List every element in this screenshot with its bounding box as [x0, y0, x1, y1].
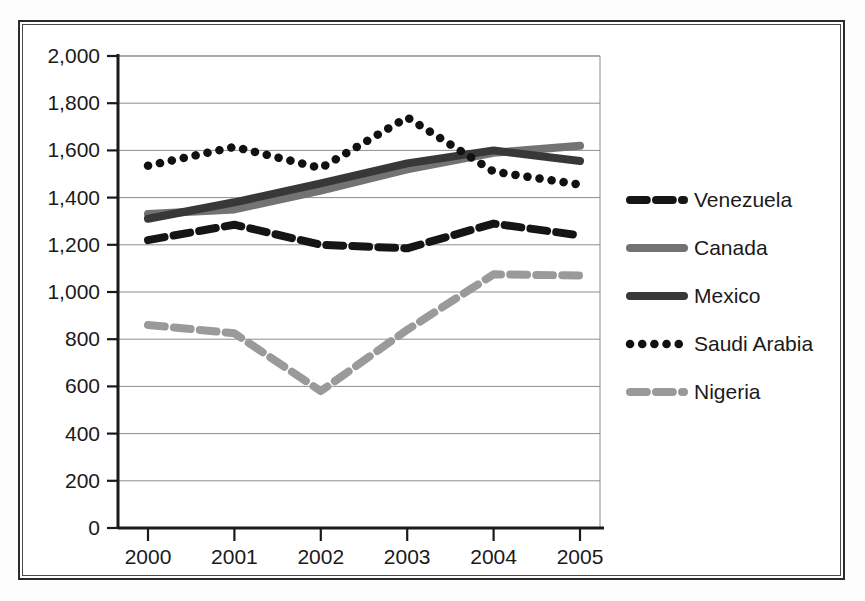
- series-line-mexico: [148, 150, 580, 218]
- x-axis-tick-label: 2002: [297, 545, 344, 568]
- legend-label-saudi-arabia: Saudi Arabia: [694, 332, 813, 355]
- y-axis-tick-label: 0: [88, 516, 100, 539]
- x-axis-tick-label: 2004: [470, 545, 517, 568]
- legend: VenezuelaCanadaMexicoSaudi ArabiaNigeria: [630, 188, 813, 403]
- legend-label-mexico: Mexico: [694, 284, 761, 307]
- x-axis-tick-label: 2000: [125, 545, 172, 568]
- legend-label-canada: Canada: [694, 236, 768, 259]
- x-axis-tick-label: 2003: [384, 545, 431, 568]
- y-axis-tick-label: 2,000: [47, 44, 100, 67]
- y-axis-tick-label: 200: [65, 469, 100, 492]
- y-axis-tick-label: 1,800: [47, 91, 100, 114]
- y-axis-tick-label: 1,600: [47, 138, 100, 161]
- y-axis-tick-label: 400: [65, 422, 100, 445]
- y-axis-tick-label: 800: [65, 327, 100, 350]
- data-series-group: [148, 117, 580, 391]
- legend-label-venezuela: Venezuela: [694, 188, 792, 211]
- figure-container: 02004006008001,0001,2001,4001,6001,8002,…: [0, 0, 865, 601]
- y-axis-labels: 02004006008001,0001,2001,4001,6001,8002,…: [47, 44, 100, 539]
- axis-lines: [118, 54, 604, 528]
- y-axis-tick-label: 1,200: [47, 233, 100, 256]
- y-axis-tick-label: 600: [65, 374, 100, 397]
- x-axis-tick-label: 2005: [557, 545, 604, 568]
- y-axis-tick-label: 1,400: [47, 186, 100, 209]
- y-axis-tickmarks: [107, 56, 118, 528]
- gridlines: [118, 56, 600, 481]
- line-chart: 02004006008001,0001,2001,4001,6001,8002,…: [0, 0, 865, 601]
- x-axis-tickmarks: [148, 528, 580, 541]
- legend-label-nigeria: Nigeria: [694, 380, 761, 403]
- x-axis-labels: 200020012002200320042005: [125, 545, 604, 568]
- y-axis-tick-label: 1,000: [47, 280, 100, 303]
- x-axis-tick-label: 2001: [211, 545, 258, 568]
- plot-svg: 02004006008001,0001,2001,4001,6001,8002,…: [0, 0, 865, 601]
